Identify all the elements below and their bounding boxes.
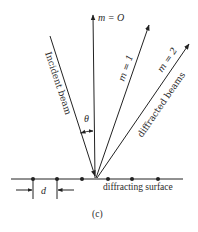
diffracted-beams-label: diffracted beams <box>135 70 187 139</box>
m1-label: m = 1 <box>116 53 135 82</box>
m2-label: m = 2 <box>155 46 179 75</box>
incident-beam-arrow <box>50 36 95 176</box>
m0-beam-arrow <box>93 15 95 178</box>
spacing-d-label: d <box>41 185 46 196</box>
surface-label: diffracting surface <box>103 182 173 192</box>
figure-caption: (c) <box>92 209 103 219</box>
theta-arc <box>80 131 93 133</box>
theta-label: θ <box>84 113 89 124</box>
diffraction-diagram: Incident beam m = 1 m = 2 diffracted bea… <box>0 0 198 232</box>
m0-label: m = O <box>98 12 124 23</box>
m1-beam-arrow <box>96 25 149 178</box>
m2-beam-arrow <box>97 44 189 178</box>
